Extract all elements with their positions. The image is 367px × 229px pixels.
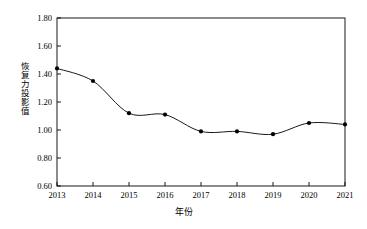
x-tick-label: 2018 bbox=[229, 190, 246, 200]
x-tick-label: 2017 bbox=[193, 190, 210, 200]
data-point bbox=[127, 111, 131, 115]
data-markers bbox=[55, 66, 347, 136]
x-tick-label: 2020 bbox=[301, 190, 318, 200]
x-tick-label: 2013 bbox=[49, 190, 66, 200]
data-point bbox=[199, 129, 203, 133]
y-tick-label: 0.80 bbox=[37, 153, 52, 163]
y-tick-label: 1.80 bbox=[37, 13, 52, 23]
y-tick-label: 1.20 bbox=[37, 97, 52, 107]
axis-frame bbox=[57, 18, 345, 186]
data-point bbox=[271, 132, 275, 136]
line-chart-svg: 0.600.801.001.201.401.601.80 20132014201… bbox=[0, 0, 367, 229]
y-tick-label: 1.00 bbox=[37, 125, 52, 135]
x-tick-label: 2021 bbox=[337, 190, 354, 200]
data-point bbox=[163, 113, 167, 117]
data-point bbox=[91, 79, 95, 83]
x-tick-label: 2016 bbox=[157, 190, 174, 200]
x-tick-label: 2015 bbox=[121, 190, 138, 200]
data-point bbox=[343, 122, 347, 126]
data-line bbox=[57, 68, 345, 134]
x-axis-ticks: 201320142015201620172018201920202021 bbox=[49, 182, 354, 200]
data-point bbox=[55, 66, 59, 70]
x-axis-label: 年份 bbox=[0, 205, 367, 218]
y-tick-label: 1.40 bbox=[37, 69, 52, 79]
chart-container: 0.600.801.001.201.401.601.80 20132014201… bbox=[0, 0, 367, 229]
data-point bbox=[307, 121, 311, 125]
x-tick-label: 2019 bbox=[265, 190, 282, 200]
y-axis-label: 恢复力投影值 bbox=[14, 62, 28, 116]
data-point bbox=[235, 129, 239, 133]
y-tick-label: 1.60 bbox=[37, 41, 52, 51]
x-tick-label: 2014 bbox=[85, 190, 103, 200]
